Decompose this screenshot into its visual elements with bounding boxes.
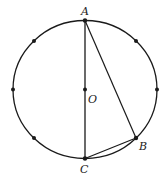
segment-AB: [85, 21, 136, 139]
dot-ne: [134, 39, 138, 43]
dot-sw: [32, 136, 36, 140]
point-A: [83, 18, 87, 22]
point-B: [134, 136, 138, 140]
dot-nw: [32, 39, 36, 43]
point-C: [83, 156, 87, 160]
label-O: O: [88, 93, 97, 106]
label-A: A: [80, 5, 89, 18]
segment-BC: [85, 138, 136, 159]
dot-e: [155, 88, 159, 92]
circle-diagram: A O B C: [0, 0, 163, 179]
label-B: B: [138, 140, 147, 153]
point-O: [83, 88, 87, 92]
dot-w: [11, 88, 15, 92]
label-C: C: [80, 163, 89, 176]
